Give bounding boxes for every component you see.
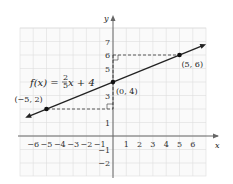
data-point: [44, 107, 49, 112]
linear-function-graph: x y −6−5−4−3−2−1123456−2−113567 (−5, 2)(…: [0, 0, 233, 184]
point-label: (−5, 2): [15, 95, 43, 104]
point-label: (5, 6): [182, 60, 204, 69]
point-label: (0, 4): [116, 87, 138, 96]
x-tick-label: −2: [81, 140, 93, 149]
y-tick-label: −1: [98, 146, 110, 155]
y-axis-label: y: [103, 14, 109, 23]
x-tick-label: −6: [27, 140, 39, 149]
x-tick-label: 2: [137, 140, 142, 149]
data-point: [111, 80, 116, 85]
x-tick-label: 4: [164, 140, 169, 149]
x-tick-label: 1: [124, 140, 129, 149]
x-axis-arrow-icon: [213, 134, 219, 139]
x-tick-label: 5: [177, 140, 182, 149]
equation-label: f(x) =: [29, 77, 59, 88]
x-tick-label: −3: [67, 140, 79, 149]
x-tick-label: −5: [41, 140, 53, 149]
x-tick-label: −4: [54, 140, 66, 149]
x-axis-label: x: [215, 141, 220, 150]
y-tick-label: 5: [105, 65, 110, 74]
y-tick-label: 3: [105, 92, 110, 101]
x-tick-label: 6: [190, 140, 195, 149]
y-tick-label: −2: [98, 159, 110, 168]
data-point: [177, 53, 182, 58]
y-tick-label: 7: [105, 38, 110, 47]
x-tick-label: 3: [150, 140, 155, 149]
y-tick-label: 1: [105, 119, 110, 128]
equation-tail: x + 4: [68, 77, 95, 88]
y-axis-arrow-icon: [111, 15, 116, 21]
y-tick-label: 6: [105, 51, 110, 60]
